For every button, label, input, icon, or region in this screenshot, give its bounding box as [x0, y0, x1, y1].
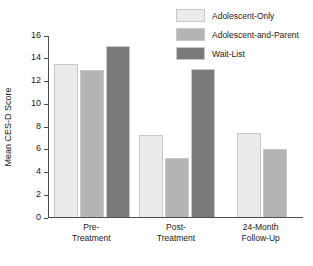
x-axis-label: 24-MonthFollow-Up [218, 222, 303, 244]
legend-item-adolescent-only: Adolescent-Only [176, 9, 313, 22]
legend-swatch-icon [176, 9, 205, 22]
x-axis-label-line: Treatment [49, 233, 134, 244]
bar [237, 133, 261, 217]
bar-chart: Adolescent-Only Adolescent-and-Parent Wa… [0, 0, 313, 266]
bar [80, 70, 104, 217]
y-axis-tick-label: 14 [31, 52, 41, 63]
x-axis-label: Pre-Treatment [49, 222, 134, 244]
y-axis-tick: 14 [44, 58, 48, 59]
plot-area: 0246810121416 [48, 36, 303, 218]
x-axis-label-line: Follow-Up [218, 233, 303, 244]
bar [263, 149, 287, 217]
x-axis-labels: Pre-TreatmentPost-Treatment24-MonthFollo… [48, 222, 303, 262]
bar [106, 46, 130, 217]
y-axis-tick: 0 [44, 218, 48, 219]
y-axis-tick-label: 8 [36, 121, 41, 132]
y-axis-tick-label: 6 [36, 143, 41, 154]
y-axis-tick: 8 [44, 127, 48, 128]
y-axis-tick: 6 [44, 149, 48, 150]
y-axis-tick-label: 12 [31, 75, 41, 86]
bar [165, 158, 189, 217]
y-axis-tick: 12 [44, 81, 48, 82]
y-axis-tick: 16 [44, 36, 48, 37]
x-axis-line [48, 217, 303, 218]
legend-item-label: Adolescent-Only [212, 11, 274, 21]
y-axis-tick-label: 0 [36, 212, 41, 223]
bar [139, 135, 163, 217]
y-axis-tick-label: 10 [31, 98, 41, 109]
x-axis-label-line: Treatment [134, 233, 219, 244]
y-axis-tick-label: 2 [36, 189, 41, 200]
y-axis-tick: 4 [44, 172, 48, 173]
x-axis-label-line: Post- [134, 222, 219, 233]
y-axis-tick: 10 [44, 104, 48, 105]
y-axis-tick: 2 [44, 195, 48, 196]
x-axis-label: Post-Treatment [134, 222, 219, 244]
y-axis-tick-label: 16 [31, 30, 41, 41]
y-axis-tick-label: 4 [36, 166, 41, 177]
y-axis-title-wrap: Mean CES-D Score [0, 36, 16, 218]
x-axis-label-line: 24-Month [218, 222, 303, 233]
y-axis-title: Mean CES-D Score [3, 87, 14, 166]
bar [54, 64, 78, 217]
x-axis-label-line: Pre- [49, 222, 134, 233]
bars-layer [49, 36, 303, 217]
bar [191, 69, 215, 217]
